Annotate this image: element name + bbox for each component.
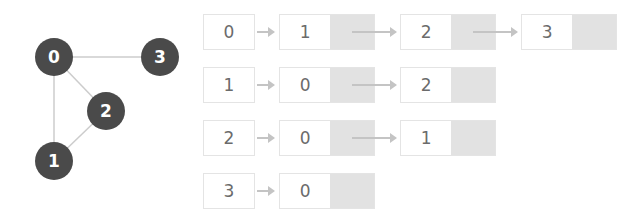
list-node-3: 3 bbox=[521, 14, 617, 50]
list-node-value: 1 bbox=[280, 15, 330, 49]
arrow-icon bbox=[257, 31, 273, 33]
head-vertex-2: 2 bbox=[203, 120, 255, 156]
list-node-pointer bbox=[330, 174, 374, 208]
list-node-pointer bbox=[572, 15, 616, 49]
head-vertex-1: 1 bbox=[203, 67, 255, 103]
list-node-value: 0 bbox=[280, 68, 330, 102]
graph-node-0: 0 bbox=[35, 38, 73, 76]
arrow-icon bbox=[352, 31, 395, 33]
head-vertex-label: 0 bbox=[204, 15, 254, 49]
head-vertex-label: 1 bbox=[204, 68, 254, 102]
list-node-value: 2 bbox=[401, 68, 451, 102]
list-node-0: 0 bbox=[279, 173, 375, 209]
head-vertex-3: 3 bbox=[203, 173, 255, 209]
graph-drawing: 0123 bbox=[0, 0, 200, 223]
head-vertex-label: 2 bbox=[204, 121, 254, 155]
list-node-value: 0 bbox=[280, 121, 330, 155]
node-label: 1 bbox=[48, 151, 60, 171]
graph-nodes: 0123 bbox=[35, 38, 179, 180]
node-label: 2 bbox=[100, 101, 112, 121]
list-node-pointer bbox=[451, 68, 495, 102]
graph-node-1: 1 bbox=[35, 142, 73, 180]
arrow-icon bbox=[352, 84, 395, 86]
list-node-value: 2 bbox=[401, 15, 451, 49]
node-label: 3 bbox=[154, 47, 166, 67]
graph-node-2: 2 bbox=[87, 92, 125, 130]
head-vertex-0: 0 bbox=[203, 14, 255, 50]
list-node-value: 1 bbox=[401, 121, 451, 155]
list-node-value: 0 bbox=[280, 174, 330, 208]
graph-node-3: 3 bbox=[141, 38, 179, 76]
list-node-value: 3 bbox=[522, 15, 572, 49]
arrow-icon bbox=[257, 84, 273, 86]
head-vertex-label: 3 bbox=[204, 174, 254, 208]
arrow-icon bbox=[257, 190, 273, 192]
list-node-pointer bbox=[451, 121, 495, 155]
arrow-icon bbox=[352, 137, 395, 139]
node-label: 0 bbox=[48, 47, 60, 67]
list-node-1: 1 bbox=[400, 120, 496, 156]
list-node-2: 2 bbox=[400, 67, 496, 103]
arrow-icon bbox=[257, 137, 273, 139]
arrow-icon bbox=[473, 31, 516, 33]
